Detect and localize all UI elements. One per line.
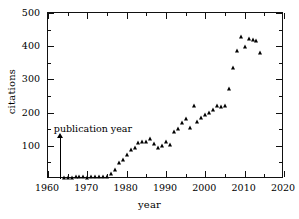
- x-axis-minor-tick: [264, 13, 265, 16]
- y-axis-minor-tick: [48, 162, 51, 163]
- x-axis-minor-tick: [68, 174, 69, 177]
- data-point-marker: [121, 158, 125, 162]
- data-point-marker: [113, 168, 117, 172]
- y-axis-tick: [276, 79, 282, 80]
- x-axis-tick: [87, 171, 88, 177]
- y-axis-tick-label: 300: [8, 73, 40, 84]
- data-point-marker: [168, 143, 172, 147]
- y-axis-tick: [48, 46, 54, 47]
- data-point-marker: [195, 119, 199, 123]
- citations-per-year-chart: publication year year citations 19601970…: [0, 0, 299, 219]
- x-axis-minor-tick: [107, 13, 108, 16]
- y-axis-tick: [276, 113, 282, 114]
- plot-frame: publication year: [47, 12, 283, 178]
- x-axis-minor-tick: [225, 13, 226, 16]
- x-axis-minor-tick: [264, 174, 265, 177]
- x-axis-tick: [166, 13, 167, 19]
- data-point-marker: [243, 45, 247, 49]
- x-axis-minor-tick: [186, 13, 187, 16]
- y-axis-minor-tick: [279, 129, 282, 130]
- y-axis-minor-tick: [48, 63, 51, 64]
- y-axis-tick: [48, 113, 54, 114]
- x-axis-tick: [245, 171, 246, 177]
- data-point-marker: [176, 126, 180, 130]
- x-axis-tick: [284, 13, 285, 19]
- y-axis-tick: [48, 13, 54, 14]
- data-point-marker: [184, 117, 188, 121]
- plot-area: publication year: [48, 13, 282, 177]
- x-axis-tick-label: 1990: [153, 182, 177, 193]
- x-axis-minor-tick: [225, 174, 226, 177]
- y-axis-tick: [276, 46, 282, 47]
- data-point-marker: [258, 51, 262, 55]
- data-point-marker: [211, 108, 215, 112]
- data-point-marker: [133, 146, 137, 150]
- data-point-marker: [125, 153, 129, 157]
- y-axis-tick: [276, 13, 282, 14]
- publication-year-arrow: [60, 138, 61, 179]
- y-axis-minor-tick: [279, 63, 282, 64]
- x-axis-tick: [284, 171, 285, 177]
- y-axis-tick-label: 500: [8, 7, 40, 18]
- x-axis-tick-label: 2000: [192, 182, 216, 193]
- x-axis-tick: [87, 13, 88, 19]
- y-axis-minor-tick: [279, 30, 282, 31]
- data-point-marker: [109, 172, 113, 176]
- x-axis-minor-tick: [68, 13, 69, 16]
- x-axis-tick: [205, 171, 206, 177]
- y-axis-tick: [48, 79, 54, 80]
- x-axis-tick-label: 2020: [271, 182, 295, 193]
- y-axis-tick-label: 100: [8, 139, 40, 150]
- x-axis-tick-label: 2010: [232, 182, 256, 193]
- y-axis-minor-tick: [279, 96, 282, 97]
- data-point-marker: [144, 140, 148, 144]
- y-axis-minor-tick: [48, 30, 51, 31]
- x-axis-tick: [48, 171, 49, 177]
- data-point-marker: [231, 66, 235, 70]
- y-axis-minor-tick: [48, 129, 51, 130]
- y-axis-tick: [48, 146, 54, 147]
- x-axis-tick: [245, 13, 246, 19]
- data-point-marker: [223, 104, 227, 108]
- y-axis-minor-tick: [279, 162, 282, 163]
- data-point-marker: [148, 136, 152, 140]
- x-axis-minor-tick: [107, 174, 108, 177]
- data-point-marker: [235, 48, 239, 52]
- publication-year-annotation-text: publication year: [54, 123, 132, 134]
- y-axis-tick-label: 400: [8, 40, 40, 51]
- y-axis-minor-tick: [48, 96, 51, 97]
- x-axis-tick: [205, 13, 206, 19]
- y-axis-tick-label: 200: [8, 106, 40, 117]
- x-axis-tick-label: 1960: [35, 182, 59, 193]
- data-point-marker: [239, 35, 243, 39]
- x-axis-tick-label: 1980: [114, 182, 138, 193]
- x-axis-tick-label: 1970: [74, 182, 98, 193]
- x-axis-tick: [127, 171, 128, 177]
- x-axis-tick: [127, 13, 128, 19]
- x-axis-minor-tick: [146, 174, 147, 177]
- x-axis-minor-tick: [186, 174, 187, 177]
- x-axis-label: year: [0, 199, 299, 210]
- data-point-marker: [180, 121, 184, 125]
- x-axis-tick: [166, 171, 167, 177]
- publication-year-arrowhead: [57, 133, 63, 138]
- y-axis-tick: [276, 146, 282, 147]
- data-point-marker: [227, 87, 231, 91]
- x-axis-minor-tick: [146, 13, 147, 16]
- data-point-marker: [254, 38, 258, 42]
- data-point-marker: [188, 125, 192, 129]
- data-point-marker: [192, 104, 196, 108]
